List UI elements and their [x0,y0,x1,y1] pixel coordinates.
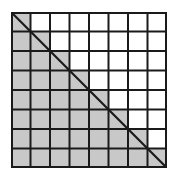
unshaded-cell [148,129,168,149]
unshaded-cell [148,110,168,130]
shaded-cell [31,149,51,169]
shaded-cell [31,71,51,91]
unshaded-cell [128,90,148,110]
unshaded-cell [148,32,168,52]
unshaded-cell [89,32,109,52]
unshaded-cell [89,51,109,71]
unshaded-cell [128,51,148,71]
shaded-cell [70,149,90,169]
unshaded-cell [89,71,109,91]
shaded-cell [89,110,109,130]
unshaded-cell [128,12,148,32]
shaded-cell [89,149,109,169]
shaded-cell [11,149,31,169]
shaded-cell [128,149,148,169]
shaded-cell [11,129,31,149]
unshaded-cell [89,12,109,32]
shaded-cell [31,129,51,149]
unshaded-cell [109,12,129,32]
unshaded-cell [128,32,148,52]
shaded-cell [70,90,90,110]
unshaded-cell [50,32,70,52]
grid-svg [11,12,167,168]
unshaded-cell [128,110,148,130]
shaded-cell [31,110,51,130]
unshaded-cell [128,71,148,91]
unshaded-cell [70,51,90,71]
shaded-cell [50,149,70,169]
shaded-cell [31,51,51,71]
unshaded-cell [109,90,129,110]
unshaded-cell [148,12,168,32]
shaded-cell [31,90,51,110]
shaded-cell [70,129,90,149]
shaded-cell [50,71,70,91]
shaded-cell [89,129,109,149]
shaded-cell [11,71,31,91]
shaded-cell [50,90,70,110]
shaded-cell [11,51,31,71]
unshaded-cell [109,71,129,91]
unshaded-cell [109,51,129,71]
shaded-cell [11,110,31,130]
unshaded-cell [148,71,168,91]
unshaded-cell [31,12,51,32]
unshaded-cell [50,12,70,32]
unshaded-cell [109,32,129,52]
shaded-cell [70,110,90,130]
shaded-cell [109,149,129,169]
shaded-grid-diagram [11,12,167,168]
shaded-cell [11,90,31,110]
shaded-cell [50,129,70,149]
unshaded-cell [70,12,90,32]
shaded-cell [11,32,31,52]
shaded-cell [109,129,129,149]
shaded-cell [50,110,70,130]
unshaded-cell [148,90,168,110]
unshaded-cell [148,51,168,71]
unshaded-cell [70,32,90,52]
